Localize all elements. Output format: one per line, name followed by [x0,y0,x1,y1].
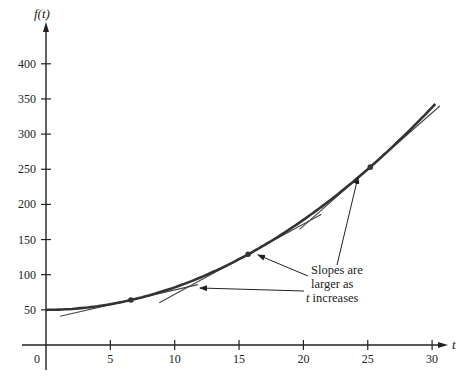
annotation-arrow [258,255,308,276]
annotation: Slopes are larger as t increases [200,177,363,305]
y-tick-label: 300 [18,127,36,141]
function-curve [46,104,435,310]
y-tick-label: 400 [18,57,36,71]
axes [22,22,448,370]
y-tick-label: 50 [24,303,36,317]
y-tick-label: 100 [18,268,36,282]
tangent-point [245,252,251,258]
y-tick-label: 150 [18,233,36,247]
annotation-increases: increases [309,291,358,305]
y-tick-label: 200 [18,197,36,211]
x-ticks: 51015202530 [107,340,438,366]
x-axis-title: t [452,337,456,352]
annotation-line-1: Slopes are [311,263,363,277]
y-tick-label: 350 [18,92,36,106]
annotation-arrow [337,177,358,265]
origin-label: 0 [34,352,40,366]
annotation-arrow [200,288,304,291]
x-tick-label: 25 [362,352,374,366]
x-axis-arrow-icon [438,342,448,348]
x-tick-label: 30 [426,352,438,366]
chart: 50100150200250300350400 51015202530 f(t)… [0,0,464,381]
x-tick-label: 20 [297,352,309,366]
x-tick-label: 10 [169,352,181,366]
y-axis-title: f(t) [34,6,50,21]
annotation-line-2: larger as [311,277,354,291]
y-tick-label: 250 [18,162,36,176]
annotation-line-3: t increases [306,291,359,305]
x-tick-label: 5 [107,352,113,366]
tangent-point [128,297,134,303]
x-tick-label: 15 [233,352,245,366]
tangent-point [368,164,374,170]
tangent-lines [60,106,440,316]
y-axis-arrow-icon [43,22,49,32]
